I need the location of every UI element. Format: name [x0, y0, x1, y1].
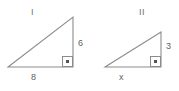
right-angle-marker-i	[63, 57, 73, 67]
triangle-i-group	[8, 17, 73, 67]
triangle-ii-horizontal-leg-label: x	[119, 72, 124, 82]
triangle-ii-group	[105, 32, 161, 67]
triangle-i-horizontal-leg-label: 8	[31, 72, 36, 82]
triangle-i-vertical-leg-label: 6	[78, 38, 83, 48]
triangle-ii-name-label: II	[139, 7, 145, 17]
right-angle-marker-ii	[151, 57, 161, 67]
triangle-i-name-label: I	[31, 7, 34, 17]
triangle-ii-vertical-leg-label: 3	[166, 41, 171, 51]
right-angle-dot-icon-ii	[154, 60, 157, 63]
right-angle-dot-icon-i	[66, 60, 69, 63]
triangles-drawing	[0, 0, 179, 91]
similar-triangles-figure: I II 6 8 3 x	[0, 0, 179, 91]
